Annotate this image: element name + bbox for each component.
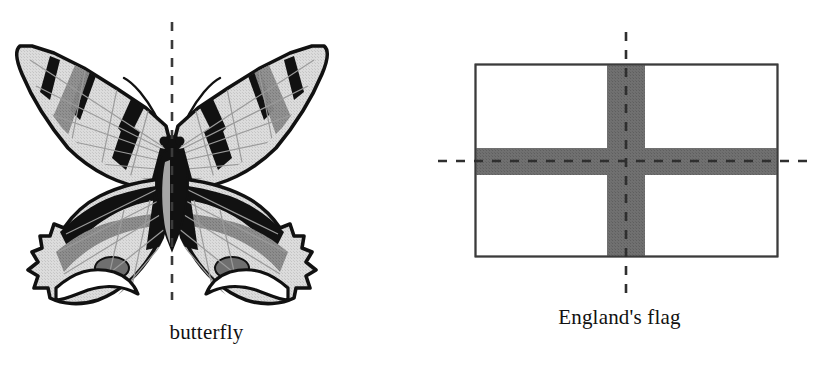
left-hindwing [28,178,170,304]
butterfly-caption: butterfly [0,320,413,345]
panel-butterfly: butterfly [0,0,413,368]
left-forewing [17,46,172,188]
right-forewing [172,46,327,188]
right-hindwing [174,178,316,304]
flag-caption: England's flag [413,305,826,330]
butterfly-illustration [0,0,413,368]
panel-flag: England's flag [413,0,826,368]
figure-canvas: butterfly England's [0,0,826,368]
